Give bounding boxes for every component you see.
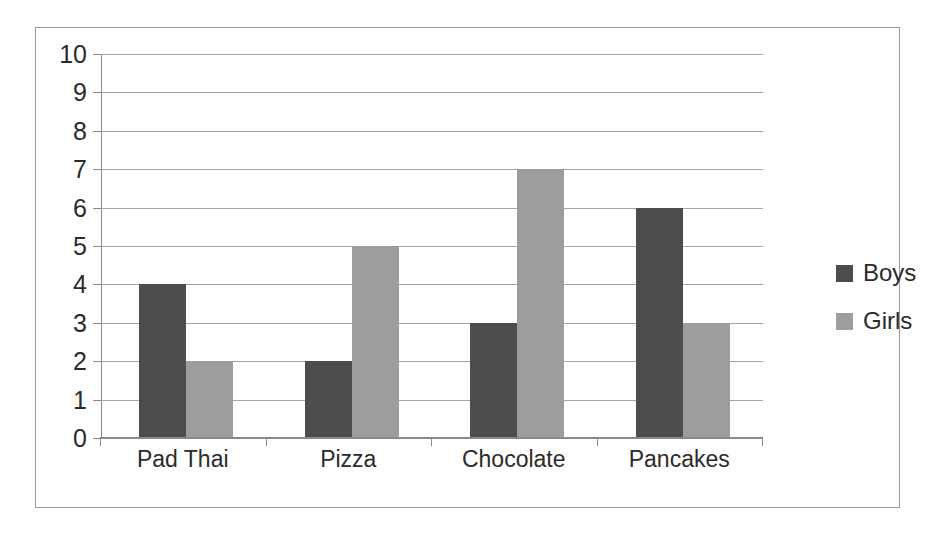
category-label-pizza: Pizza <box>266 448 432 471</box>
gridline-9 <box>101 92 763 93</box>
gridline-7 <box>101 169 763 170</box>
y-tick-10 <box>93 54 101 55</box>
bar-boys-chocolate <box>470 323 517 438</box>
plot-area: 109876543210 <box>101 54 763 438</box>
legend-label-girls: Girls <box>863 309 912 333</box>
legend-label-boys: Boys <box>863 261 916 285</box>
category-tick-4 <box>762 437 763 446</box>
y-tick-label-8: 8 <box>73 118 87 143</box>
y-tick-label-3: 3 <box>73 310 87 335</box>
y-tick-label-2: 2 <box>73 349 87 374</box>
category-label-pancakes: Pancakes <box>597 448 763 471</box>
y-tick-label-7: 7 <box>73 157 87 182</box>
y-tick-2 <box>93 361 101 362</box>
category-tick-1 <box>266 437 267 446</box>
category-tick-3 <box>597 437 598 446</box>
bar-boys-pizza <box>305 361 352 438</box>
category-label-pad-thai: Pad Thai <box>100 448 266 471</box>
y-tick-label-10: 10 <box>59 42 87 67</box>
y-tick-label-4: 4 <box>73 272 87 297</box>
legend-item-girls[interactable]: Girls <box>836 308 916 334</box>
category-label-chocolate: Chocolate <box>431 448 597 471</box>
category-tick-0 <box>100 437 101 446</box>
y-tick-8 <box>93 131 101 132</box>
gridline-0 <box>101 438 763 439</box>
y-tick-3 <box>93 323 101 324</box>
bar-boys-pancakes <box>636 208 683 438</box>
bar-girls-pad-thai <box>186 361 233 438</box>
y-tick-9 <box>93 92 101 93</box>
y-tick-1 <box>93 400 101 401</box>
bar-girls-pizza <box>352 246 399 438</box>
bar-girls-chocolate <box>517 169 564 438</box>
y-tick-label-5: 5 <box>73 234 87 259</box>
gridline-8 <box>101 131 763 132</box>
y-tick-label-0: 0 <box>73 426 87 451</box>
y-tick-label-6: 6 <box>73 195 87 220</box>
y-tick-4 <box>93 284 101 285</box>
bar-girls-pancakes <box>683 323 730 438</box>
category-tick-2 <box>431 437 432 446</box>
y-tick-7 <box>93 169 101 170</box>
y-tick-5 <box>93 246 101 247</box>
legend-swatch-girls-icon <box>836 313 853 330</box>
chart-frame: 109876543210 BoysGirls <box>35 27 900 508</box>
y-tick-label-9: 9 <box>73 80 87 105</box>
bar-boys-pad-thai <box>139 284 186 438</box>
legend-item-boys[interactable]: Boys <box>836 260 916 286</box>
y-tick-6 <box>93 208 101 209</box>
gridline-10 <box>101 54 763 55</box>
chart-legend: BoysGirls <box>836 260 916 356</box>
legend-swatch-boys-icon <box>836 265 853 282</box>
y-tick-label-1: 1 <box>73 387 87 412</box>
